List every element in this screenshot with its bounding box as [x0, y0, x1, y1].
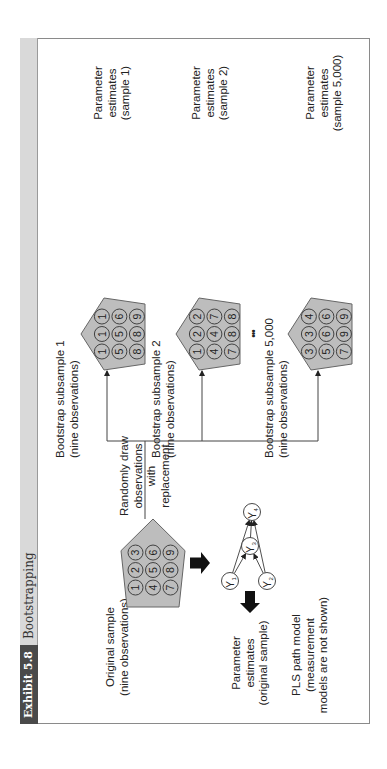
- observation-number: 6: [320, 313, 332, 319]
- observation-number: 6: [147, 549, 159, 555]
- observation-number: 8: [131, 348, 143, 354]
- observation-number: 9: [338, 331, 350, 337]
- observation-number: 4: [147, 584, 159, 590]
- observation-number: 2: [191, 313, 203, 319]
- observation-number: 5: [113, 331, 125, 337]
- subsample-pentagon-1: 111556889: [81, 298, 145, 370]
- observation-number: 1: [191, 348, 203, 354]
- path-arrow: [250, 521, 251, 538]
- observation-number: 6: [320, 331, 332, 337]
- observation-number: 7: [208, 313, 220, 319]
- observation-number: 9: [164, 549, 176, 555]
- observation-number: 1: [129, 584, 141, 590]
- observation-number: 7: [338, 348, 350, 354]
- bootstrapping-figure: Exhibit 5.8 Bootstrapping Original sampl…: [0, 0, 387, 769]
- observation-number: 8: [226, 331, 238, 337]
- observation-number: 5: [147, 567, 159, 573]
- subsample-pentagon-2: 122447788: [176, 298, 240, 370]
- observation-number: 1: [96, 331, 108, 337]
- observation-number: 5: [113, 348, 125, 354]
- observation-number: 2: [129, 567, 141, 573]
- observation-number: 9: [338, 313, 350, 319]
- observation-number: 3: [303, 331, 315, 337]
- subsample-pentagon-3: 334566799: [288, 298, 352, 370]
- arrow-to-pls-model: [190, 552, 210, 574]
- observation-number: 4: [303, 313, 315, 319]
- observation-number: 4: [208, 331, 220, 337]
- diagram-graphics: 123456789Y1Y2Y3Y411155688912244778833456…: [0, 0, 387, 769]
- observation-number: 3: [129, 549, 141, 555]
- observation-number: 8: [226, 313, 238, 319]
- observation-number: 5: [320, 348, 332, 354]
- observation-number: 4: [208, 348, 220, 354]
- arrow-to-original-estimates: [240, 591, 260, 613]
- observation-number: 7: [226, 348, 238, 354]
- observation-number: 3: [303, 348, 315, 354]
- pls-path-model: Y1Y2Y3Y4: [222, 504, 276, 590]
- observation-number: 9: [131, 313, 143, 319]
- observation-number: 8: [164, 567, 176, 573]
- observation-number: 1: [96, 348, 108, 354]
- original-sample-pentagon: 123456789: [121, 519, 185, 607]
- observation-number: 1: [96, 313, 108, 319]
- observation-number: 6: [113, 313, 125, 319]
- observation-number: 2: [191, 331, 203, 337]
- observation-number: 8: [131, 331, 143, 337]
- observation-number: 7: [164, 584, 176, 590]
